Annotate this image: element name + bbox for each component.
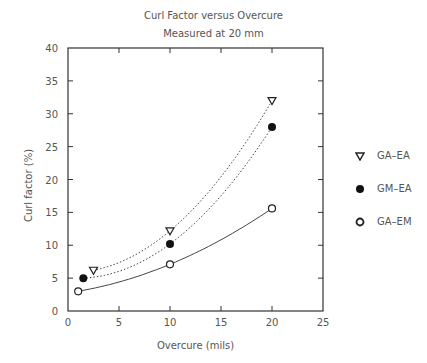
x-axis-label: Overcure (mils) bbox=[68, 340, 323, 351]
x-tick-label: 10 bbox=[164, 317, 177, 328]
legend-label: GA–EA bbox=[377, 150, 410, 161]
y-tick-label: 5 bbox=[52, 273, 58, 284]
y-tick-label: 0 bbox=[52, 306, 58, 317]
x-tick-label: 5 bbox=[116, 317, 122, 328]
data-point-open-circle bbox=[269, 205, 276, 212]
y-tick-label: 20 bbox=[45, 175, 58, 186]
series-curve bbox=[97, 104, 270, 270]
plot-area: 05101520250510152025303540 bbox=[0, 0, 427, 363]
data-point-triangle bbox=[90, 267, 98, 274]
series-curve bbox=[86, 130, 270, 278]
y-axis-label: Curl factor (%) bbox=[23, 146, 34, 226]
legend-item-ga-ea: GA–EA bbox=[355, 150, 410, 161]
y-tick-label: 15 bbox=[45, 207, 58, 218]
open-circle-icon bbox=[355, 217, 365, 227]
filled-circle-icon bbox=[355, 184, 365, 194]
plot-frame bbox=[68, 48, 323, 311]
series-curve bbox=[81, 210, 270, 291]
x-tick-label: 25 bbox=[317, 317, 330, 328]
legend-item-ga-em: GA–EM bbox=[355, 216, 412, 227]
data-point-triangle bbox=[268, 98, 276, 105]
data-point-open-circle bbox=[75, 288, 82, 295]
legend-label: GA–EM bbox=[377, 216, 412, 227]
y-tick-label: 30 bbox=[45, 109, 58, 120]
data-point-filled-circle bbox=[166, 240, 174, 248]
legend-label: GM–EA bbox=[377, 183, 412, 194]
x-tick-label: 15 bbox=[215, 317, 228, 328]
data-point-open-circle bbox=[167, 261, 174, 268]
data-point-filled-circle bbox=[268, 123, 276, 131]
open-triangle-icon bbox=[355, 151, 365, 161]
y-tick-label: 25 bbox=[45, 142, 58, 153]
data-point-filled-circle bbox=[79, 274, 87, 282]
legend-item-gm-ea: GM–EA bbox=[355, 183, 412, 194]
y-tick-label: 40 bbox=[45, 43, 58, 54]
x-tick-label: 20 bbox=[266, 317, 279, 328]
data-point-triangle bbox=[166, 228, 174, 235]
y-tick-label: 10 bbox=[45, 240, 58, 251]
y-tick-label: 35 bbox=[45, 76, 58, 87]
x-tick-label: 0 bbox=[65, 317, 71, 328]
